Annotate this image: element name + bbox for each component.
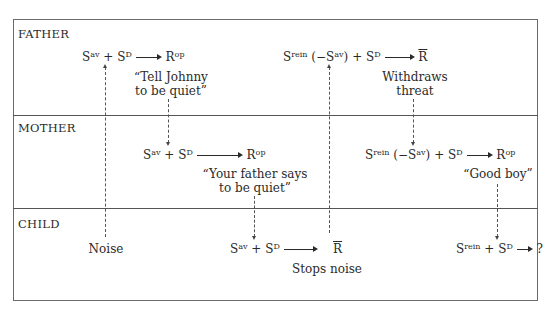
- arrow-down-icon: [495, 236, 499, 240]
- child-formula-1: Sav + SD R: [230, 242, 342, 256]
- connector-noise-to-father: [105, 67, 106, 237]
- mother-formula-1: Sav + SD Rop: [143, 148, 266, 162]
- arrow-down-icon: [252, 236, 256, 240]
- arrow-right-icon: [197, 148, 243, 162]
- father-formula-1: Sav + SD Rop: [82, 50, 185, 64]
- arrow-right-icon: [467, 148, 493, 162]
- arrow-right-icon: [284, 242, 318, 256]
- row-label-child: CHILD: [18, 217, 60, 231]
- arrow-up-icon: [103, 64, 107, 68]
- child-formula-2: Srein + SD ?: [456, 242, 543, 256]
- row-divider-father-mother: [13, 115, 538, 116]
- child-caption-1: Stops noise: [282, 262, 372, 276]
- arrow-down-icon: [166, 142, 170, 146]
- arrow-up-icon: [327, 64, 331, 68]
- row-label-father: FATHER: [18, 27, 69, 41]
- arrow-down-icon: [411, 142, 415, 146]
- arrow-right-icon: [136, 50, 162, 64]
- mother-caption-1: “Your father says to be quiet”: [196, 167, 314, 195]
- father-caption-2: Withdraws threat: [380, 70, 450, 98]
- connector-child-to-father-2: [329, 67, 330, 233]
- arrow-right-icon: [385, 50, 415, 64]
- child-noise-label: Noise: [86, 242, 126, 256]
- row-label-mother: MOTHER: [18, 121, 76, 135]
- connector-father-to-mother-1: [168, 99, 169, 143]
- connector-mother-to-child-2: [497, 184, 498, 237]
- father-caption-1: “Tell Johnny to be quiet”: [126, 70, 216, 98]
- connector-mother-to-child-1: [254, 196, 255, 237]
- father-formula-2: Srein (−Sav) + SD R: [283, 50, 427, 64]
- arrow-right-icon: [517, 242, 533, 256]
- row-divider-mother-child: [13, 208, 538, 209]
- connector-father-to-mother-2: [413, 99, 414, 143]
- mother-caption-2: “Good boy”: [460, 167, 536, 181]
- mother-formula-2: Srein (−Sav) + SD Rop: [365, 148, 515, 162]
